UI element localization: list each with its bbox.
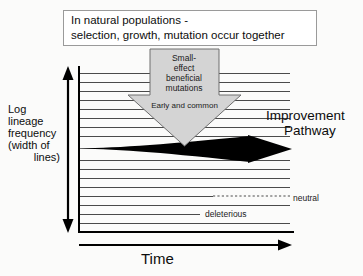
callout-arrow-line-3: beneficial [148, 73, 220, 83]
wedge-lens [79, 136, 250, 162]
callout-arrow-line-4: mutations [148, 83, 220, 93]
y-axis-label-line-1: Log [8, 103, 60, 115]
callout-arrow-line-2: effect [148, 63, 220, 73]
deleterious-label: deleterious [205, 209, 247, 219]
x-arrow-head-right [278, 240, 292, 251]
x-axis-label: Time [141, 250, 174, 267]
title-line-1: In natural populations - [71, 14, 188, 26]
figure-canvas: In natural populations - selection, grow… [0, 0, 363, 276]
improvement-pathway-label: Improvement Pathway [266, 108, 345, 138]
y-axis-label-line-5: lines) [8, 151, 60, 163]
y-axis-label-line-4: (width of [8, 139, 60, 151]
y-arrow-head-up [63, 66, 74, 80]
y-arrow-head-down [63, 219, 74, 233]
y-axis-double-arrow [63, 66, 74, 233]
wedge-tip-triangle [248, 135, 292, 163]
improvement-pathway-label-line-1: Improvement [266, 108, 345, 123]
y-axis-label-line-2: lineage [8, 115, 60, 127]
y-axis-label-line-3: frequency [8, 127, 60, 139]
x-axis-arrow [79, 240, 292, 251]
callout-arrow-subcaption: Early and common [132, 101, 237, 110]
title-line-2: selection, growth, mutation occur togeth… [71, 29, 285, 41]
title-callout-box: In natural populations - selection, grow… [63, 10, 317, 46]
callout-arrow-line-1: Small- [148, 53, 220, 63]
y-axis-label: Log lineage frequency (width of lines) [8, 103, 60, 163]
neutral-label: neutral [293, 193, 319, 203]
improvement-pathway-label-line-2: Pathway [266, 123, 345, 138]
